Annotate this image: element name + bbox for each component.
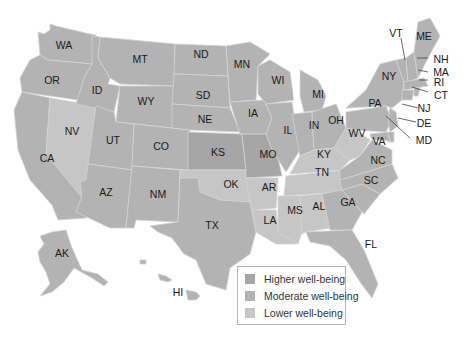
label-nd: ND: [193, 48, 209, 60]
label-nc: NC: [370, 154, 386, 166]
label-nh: NH: [433, 53, 448, 65]
label-az: AZ: [99, 186, 113, 198]
label-wa: WA: [56, 39, 73, 51]
label-in: IN: [309, 119, 320, 131]
label-ak: AK: [55, 247, 69, 259]
label-mn: MN: [234, 58, 250, 70]
legend-swatch-higher: [245, 274, 255, 284]
label-fl: FL: [365, 238, 377, 250]
label-va: VA: [372, 135, 385, 147]
state-ct[interactable]: [402, 90, 414, 100]
label-tn: TN: [315, 166, 329, 178]
us-map: WA OR CA NV ID MT WY UT CO AZ NM ND SD N…: [0, 0, 472, 339]
legend-item-lower: Lower well-being: [245, 307, 343, 319]
label-ar: AR: [262, 181, 277, 193]
legend-label: Moderate well-being: [264, 290, 359, 302]
state-nj[interactable]: [388, 108, 398, 132]
legend-swatch-lower: [245, 308, 255, 318]
label-ks: KS: [211, 146, 225, 158]
state-hi[interactable]: [186, 290, 200, 300]
label-sc: SC: [364, 174, 379, 186]
label-ut: UT: [106, 134, 121, 146]
label-mi: MI: [312, 88, 324, 100]
label-wy: WY: [138, 95, 155, 107]
label-ia: IA: [248, 107, 258, 119]
legend-item-higher: Higher well-being: [245, 273, 345, 285]
legend-item-moderate: Moderate well-being: [245, 290, 359, 302]
label-ne: NE: [198, 113, 213, 125]
label-al: AL: [313, 200, 326, 212]
label-wv: WV: [349, 127, 366, 139]
state-wy[interactable]: [116, 86, 174, 128]
label-me: ME: [416, 30, 432, 42]
label-sd: SD: [196, 89, 211, 101]
label-ri: RI: [434, 76, 445, 88]
label-md: MD: [416, 134, 433, 146]
label-wi: WI: [272, 74, 285, 86]
label-la: LA: [264, 214, 277, 226]
label-ms: MS: [287, 204, 303, 216]
label-hi: HI: [173, 286, 184, 298]
label-ok: OK: [223, 178, 238, 190]
state-hi-islands: [158, 274, 172, 282]
label-il: IL: [284, 124, 293, 136]
label-nm: NM: [150, 188, 166, 200]
label-oh: OH: [328, 114, 344, 126]
legend-label: Higher well-being: [264, 273, 345, 285]
label-ga: GA: [340, 196, 355, 208]
label-tx: TX: [205, 219, 218, 231]
state-ak[interactable]: [38, 230, 108, 296]
label-nj: NJ: [418, 102, 431, 114]
label-or: OR: [44, 74, 60, 86]
label-id: ID: [92, 84, 103, 96]
state-hi-islets: [140, 260, 146, 264]
label-nv: NV: [65, 125, 80, 137]
label-co: CO: [153, 140, 169, 152]
legend: Higher well-being Moderate well-being Lo…: [237, 266, 346, 325]
label-de: DE: [417, 117, 432, 129]
label-mt: MT: [132, 53, 148, 65]
label-pa: PA: [368, 97, 381, 109]
label-mo: MO: [260, 148, 277, 160]
label-vt: VT: [389, 27, 403, 39]
label-ky: KY: [317, 148, 331, 160]
legend-label: Lower well-being: [264, 307, 343, 319]
label-ca: CA: [40, 152, 55, 164]
label-ny: NY: [382, 70, 397, 82]
legend-swatch-moderate: [245, 291, 255, 301]
label-ct: CT: [434, 89, 449, 101]
